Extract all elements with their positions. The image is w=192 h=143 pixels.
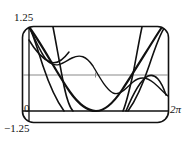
y-axis-max-label: 1.25 <box>14 12 33 23</box>
x-axis-max-label: 2π <box>170 104 181 115</box>
chart-container: 1.25 0 −1.25 2π <box>0 0 192 143</box>
y-axis-zero-label: 0 <box>24 103 30 114</box>
y-axis-min-label: −1.25 <box>4 123 29 134</box>
